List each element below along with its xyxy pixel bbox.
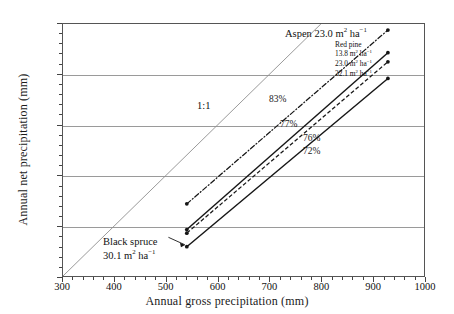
x-tick-major: [373, 277, 374, 282]
x-tick-minor: [176, 277, 177, 280]
y-tick-minor: [59, 53, 62, 54]
y-tick-minor: [59, 196, 62, 197]
y-tick-minor: [59, 165, 62, 166]
x-tick-minor: [352, 277, 353, 280]
x-tick-minor: [394, 277, 395, 280]
x-tick-minor: [135, 277, 136, 280]
y-tick-minor: [59, 33, 62, 34]
x-axis-title: Annual gross precipitation (mm): [0, 294, 454, 309]
plot-frame: 1:1 83% 77% 76% 72% Aspen 23.0 m2 ha−1 B…: [62, 23, 425, 277]
y-axis-title: Annual net precipitation (mm): [16, 23, 31, 277]
y-tick-minor: [59, 135, 62, 136]
x-tick-minor: [404, 277, 405, 280]
legend-title: Red pine: [335, 40, 372, 49]
annotation-black-spruce-sup-minus1: −1: [148, 248, 155, 255]
x-tick-minor: [186, 277, 187, 280]
legend-item-32-1-value: 32.1 m: [335, 70, 356, 79]
x-tick-minor: [103, 277, 104, 280]
x-tick-major: [269, 277, 270, 282]
series-marker-red-pine-23-0-start: [185, 231, 189, 235]
y-tick-minor: [59, 145, 62, 146]
series-marker-aspen-23-0-start: [185, 202, 189, 206]
series-marker-aspen-23-0-end: [386, 28, 390, 32]
annotation-percent-83: 83%: [269, 94, 286, 105]
series-line-1to1: [63, 24, 321, 276]
y-tick-minor: [59, 114, 62, 115]
y-tick-minor: [59, 84, 62, 85]
x-tick-minor: [363, 277, 364, 280]
legend-item-23-0-sup-minus1: −1: [367, 59, 372, 64]
annotation-percent-72: 72%: [303, 146, 320, 157]
x-tick-minor: [342, 277, 343, 280]
x-tick-label-500: 500: [158, 281, 174, 292]
y-tick-minor: [59, 186, 62, 187]
annotation-aspen-sup-minus1: −1: [360, 26, 367, 33]
legend-item-32-1-ha: ha: [358, 70, 367, 79]
legend-item-13-8: 13.8 m2 ha−1: [335, 49, 372, 59]
x-tick-minor: [259, 277, 260, 280]
annotation-black-spruce: Black spruce 30.1 m2 ha−1: [103, 236, 158, 262]
figure-container: Annual net precipitation (mm) 800 700 60…: [0, 0, 454, 314]
series-marker-red-pine-23-0-end: [386, 60, 390, 64]
x-tick-label-900: 900: [365, 281, 381, 292]
legend-item-32-1: 32.1 m2 ha−1: [335, 69, 372, 79]
series-marker-red-pine-13-8-end: [386, 51, 390, 55]
x-tick-minor: [124, 277, 125, 280]
legend-item-23-0: 23.0 m2 ha−1: [335, 59, 372, 69]
y-tick-minor: [59, 267, 62, 268]
legend-item-23-0-value: 23.0 m: [335, 60, 356, 69]
x-tick-label-600: 600: [210, 281, 226, 292]
y-tick-minor: [59, 257, 62, 258]
x-tick-label-300: 300: [54, 281, 70, 292]
y-tick-minor: [59, 43, 62, 44]
x-tick-minor: [415, 277, 416, 280]
x-tick-minor: [332, 277, 333, 280]
x-tick-minor: [93, 277, 94, 280]
series-line-red-pine-23-0: [187, 62, 388, 233]
series-marker-red-pine-32-1-start: [185, 245, 189, 249]
legend-item-13-8-ha: ha: [358, 50, 367, 59]
y-tick-minor: [59, 247, 62, 248]
y-tick-minor: [59, 155, 62, 156]
annotation-aspen: Aspen 23.0 m2 ha−1: [285, 26, 367, 40]
plot-area: 1:1 83% 77% 76% 72% Aspen 23.0 m2 ha−1 B…: [63, 24, 424, 276]
x-tick-label-1000: 1000: [415, 281, 436, 292]
legend-item-23-0-ha: ha: [358, 60, 367, 69]
x-tick-minor: [228, 277, 229, 280]
x-tick-minor: [238, 277, 239, 280]
black-spruce-leader-arrow: [168, 237, 184, 244]
x-tick-minor: [197, 277, 198, 280]
series-marker-red-pine-13-8-start: [185, 228, 189, 232]
x-tick-major: [218, 277, 219, 282]
annotation-percent-77: 77%: [280, 119, 297, 130]
x-tick-minor: [83, 277, 84, 280]
annotation-black-spruce-line2: 30.1 m2 ha−1: [103, 248, 158, 262]
x-tick-major: [321, 277, 322, 282]
x-tick-minor: [72, 277, 73, 280]
y-tick-minor: [59, 216, 62, 217]
x-tick-minor: [249, 277, 250, 280]
annotation-aspen-text: Aspen 23.0 m: [285, 28, 344, 39]
annotation-percent-76: 76%: [303, 133, 320, 144]
x-tick-minor: [145, 277, 146, 280]
x-tick-label-700: 700: [262, 281, 278, 292]
annotation-black-spruce-ha: ha: [136, 250, 149, 261]
annotation-aspen-ha: ha: [347, 28, 360, 39]
annotation-one-to-one: 1:1: [197, 100, 210, 112]
x-tick-minor: [311, 277, 312, 280]
series-line-red-pine-32-1: [187, 78, 388, 246]
legend: Red pine 13.8 m2 ha−1 23.0 m2 ha−1 32.1 …: [335, 40, 372, 79]
legend-item-13-8-sup-minus1: −1: [367, 49, 372, 54]
series-marker-red-pine-32-1-end: [386, 77, 390, 81]
x-tick-label-400: 400: [106, 281, 122, 292]
x-tick-minor: [301, 277, 302, 280]
legend-item-13-8-value: 13.8 m: [335, 50, 356, 59]
x-tick-minor: [207, 277, 208, 280]
annotation-black-spruce-value: 30.1 m: [103, 250, 132, 261]
x-tick-minor: [155, 277, 156, 280]
x-tick-major: [166, 277, 167, 282]
y-tick-minor: [59, 94, 62, 95]
annotation-black-spruce-line1: Black spruce: [103, 236, 158, 248]
legend-item-32-1-sup-minus1: −1: [367, 69, 372, 74]
x-tick-major: [114, 277, 115, 282]
